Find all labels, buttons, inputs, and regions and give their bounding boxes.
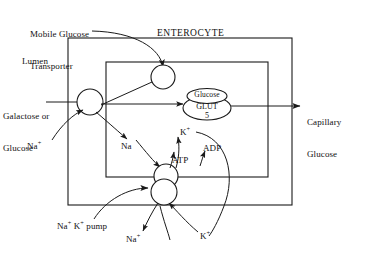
basolateral-sodium-curve bbox=[160, 206, 170, 240]
external-potassium-label: K+ bbox=[200, 231, 210, 242]
potassium-uptake-arrow bbox=[169, 203, 198, 232]
mobile-glucose-transporter-vesicle bbox=[151, 65, 175, 89]
potassium-influx-charge: + bbox=[187, 125, 191, 132]
capillary-line2: Glucose bbox=[307, 149, 341, 160]
luminal-sodium-text: Na bbox=[27, 141, 38, 151]
pump-na-text: Na bbox=[57, 221, 68, 231]
capillary-glucose-label: Capillary Glucose bbox=[307, 96, 341, 180]
substrate-label: Galactose or Glucose bbox=[3, 90, 49, 174]
external-potassium-text: K bbox=[200, 231, 207, 241]
extruded-sodium-charge: + bbox=[137, 232, 141, 239]
sodium-potassium-pump-label: Na+ K+ pump bbox=[57, 221, 107, 232]
mobile-transporter-line1: Mobile Glucose bbox=[30, 29, 89, 40]
atp-label: ATP bbox=[172, 155, 188, 166]
pump-label-leader-line bbox=[94, 188, 148, 219]
glut5-name-label: GLUT bbox=[187, 102, 227, 111]
cytosolic-sodium-label: Na bbox=[121, 141, 132, 152]
extruded-sodium-label: Na+ bbox=[126, 234, 140, 245]
intracellular-sodium-arrow bbox=[96, 112, 127, 139]
potassium-influx-text: K bbox=[180, 127, 187, 137]
glut5-glucose-label: Glucose bbox=[187, 91, 227, 100]
transporter-to-vesicle-line bbox=[101, 82, 152, 105]
capillary-line1: Capillary bbox=[307, 117, 341, 128]
glut5-number-label: 5 bbox=[187, 111, 227, 120]
pump-lower-subunit bbox=[151, 179, 177, 205]
potassium-influx-label: K+ bbox=[180, 127, 190, 138]
substrate-line1: Galactose or bbox=[3, 111, 49, 122]
extruded-sodium-text: Na bbox=[126, 234, 137, 244]
sodium-to-pump-arrow bbox=[136, 140, 160, 167]
lumen-label: Lumen bbox=[22, 56, 48, 67]
enterocyte-glucose-transport-diagram: Mobile Glucose Transporter ENTEROCYTE Lu… bbox=[0, 0, 370, 262]
luminal-sodium-charge: + bbox=[38, 139, 42, 146]
luminal-sodium-label: Na+ bbox=[27, 141, 41, 152]
pump-k-text: K bbox=[71, 221, 80, 231]
adp-label: ADP bbox=[203, 143, 221, 154]
enterocyte-outer-box bbox=[68, 38, 292, 205]
enterocyte-label: ENTEROCYTE bbox=[157, 28, 224, 39]
mobile-glucose-transporter-label: Mobile Glucose Transporter bbox=[30, 8, 89, 92]
sodium-extrusion-arrow bbox=[143, 203, 158, 231]
external-potassium-charge: + bbox=[207, 229, 211, 236]
pump-word-text: pump bbox=[84, 221, 107, 231]
